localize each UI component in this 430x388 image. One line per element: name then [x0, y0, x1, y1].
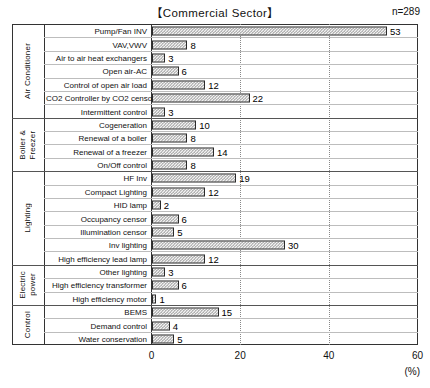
group-separator	[12, 118, 418, 119]
bar-value-label: 2	[164, 200, 169, 211]
bar-value-label: 5	[177, 226, 182, 237]
group-separator	[12, 171, 418, 172]
group-label-text: Air Conditioner	[23, 43, 33, 99]
bar	[152, 227, 174, 236]
x-tick-label-40: 40	[323, 350, 334, 361]
bar-row-label: High efficiency motor	[46, 294, 147, 303]
row-separator	[44, 131, 418, 132]
bar-value-label: 6	[182, 213, 187, 224]
row-separator	[44, 225, 418, 226]
bar-value-label: 3	[168, 106, 173, 117]
bar-row-label: Compact Lighting	[46, 187, 147, 196]
bar-row-label: Control of open air load	[46, 80, 147, 89]
bar-value-label: 30	[288, 240, 299, 251]
sample-size-label: n=289	[392, 6, 420, 17]
bar-row-label: Illumination censor	[46, 227, 147, 236]
bar	[152, 334, 174, 343]
bar-row-label: Renewal of a boiler	[46, 134, 147, 143]
bar	[152, 107, 165, 116]
bar	[152, 27, 387, 36]
row-separator	[44, 251, 418, 252]
row-separator	[44, 37, 418, 38]
bar-row-label: On/Off control	[46, 161, 147, 170]
bar	[152, 321, 170, 330]
bar-row-label: Cogeneration	[46, 120, 147, 129]
bar	[152, 241, 285, 250]
x-tick-label-20: 20	[235, 350, 246, 361]
bar-value-label: 8	[190, 39, 195, 50]
row-separator	[44, 198, 418, 199]
bar-row-label: Intermittent control	[46, 107, 147, 116]
bar	[152, 120, 196, 129]
bar-value-label: 6	[182, 66, 187, 77]
bar	[152, 308, 219, 317]
bar-row-label: Air to air heat exchangers	[46, 54, 147, 63]
group-label: Boiler & Freezer	[12, 118, 44, 172]
bar-value-label: 5	[177, 333, 182, 344]
bar-value-label: 12	[208, 253, 219, 264]
row-separator	[44, 238, 418, 239]
bar-value-label: 12	[208, 186, 219, 197]
bar-value-label: 4	[173, 320, 178, 331]
bar-row: Water conservation5	[12, 332, 418, 347]
row-separator	[44, 91, 418, 92]
row-separator	[44, 332, 418, 333]
bar-chart: 【Commercial Sector】 n=289 Pump/Fan INV53…	[0, 0, 430, 388]
bar	[152, 40, 187, 49]
group-label-text: Electric power	[18, 271, 38, 299]
bar-row-label: Inv lighting	[46, 241, 147, 250]
bar-row-label: Occupancy censor	[46, 214, 147, 223]
bar-value-label: 8	[190, 133, 195, 144]
bar-value-label: 10	[199, 119, 210, 130]
group-separator	[12, 265, 418, 266]
bar-value-label: 8	[190, 160, 195, 171]
bar-rows-container: Pump/Fan INV53VAV,VWV8Air to air heat ex…	[12, 24, 418, 345]
chart-title: 【Commercial Sector】	[0, 4, 430, 20]
bar	[152, 281, 179, 290]
bar-value-label: 12	[208, 79, 219, 90]
bar-value-label: 14	[217, 146, 228, 157]
row-separator	[44, 51, 418, 52]
group-label-text: Control	[23, 311, 33, 338]
bar-value-label: 19	[239, 173, 250, 184]
bar-row-label: BEMS	[46, 308, 147, 317]
row-separator	[44, 78, 418, 79]
group-label-text: Lighting	[23, 203, 33, 233]
row-separator	[44, 104, 418, 105]
group-label: Electric power	[12, 265, 44, 305]
bar	[152, 294, 156, 303]
bar-row-label: Pump/Fan INV	[46, 27, 147, 36]
bar-row-label: Renewal of a freezer	[46, 147, 147, 156]
x-tick-label-0: 0	[149, 350, 155, 361]
bar-value-label: 3	[168, 53, 173, 64]
bar-row-label: HID lamp	[46, 201, 147, 210]
x-axis-unit-label: (%)	[404, 366, 420, 377]
bar	[152, 54, 165, 63]
bar-value-label: 6	[182, 280, 187, 291]
bar	[152, 254, 205, 263]
bar-row-label: VAV,VWV	[46, 40, 147, 49]
row-separator	[44, 292, 418, 293]
bar-value-label: 53	[390, 26, 401, 37]
bar-row-label: CO2 Controller by CO2 censor	[46, 94, 147, 103]
bar-value-label: 15	[222, 307, 233, 318]
row-separator	[44, 211, 418, 212]
bar	[152, 201, 161, 210]
bar-value-label: 22	[253, 93, 264, 104]
x-tick-label-60: 60	[412, 350, 423, 361]
bar-row-label: Other lighting	[46, 268, 147, 277]
bar	[152, 67, 179, 76]
row-separator	[44, 318, 418, 319]
bar-row-label: Water conservation	[46, 334, 147, 343]
row-separator	[44, 144, 418, 145]
bar-row-label: High efficiency lead lamp	[46, 254, 147, 263]
row-separator	[44, 185, 418, 186]
group-separator	[12, 305, 418, 306]
bar-row-label: Demand control	[46, 321, 147, 330]
row-separator	[44, 158, 418, 159]
bar	[152, 268, 165, 277]
bar	[152, 94, 250, 103]
bar-value-label: 3	[168, 267, 173, 278]
bar	[152, 147, 214, 156]
row-separator	[44, 278, 418, 279]
